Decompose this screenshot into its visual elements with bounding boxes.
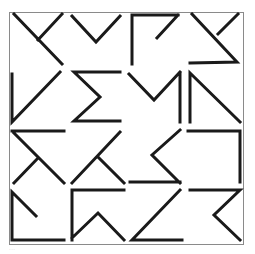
glyph-reverse-l-r3c4 xyxy=(188,131,240,182)
glyph-post-with-diagonal-r2c4 xyxy=(190,73,240,122)
glyph-corner-with-peak-r4c2 xyxy=(72,190,124,240)
glyph-l-with-slash-r4c1 xyxy=(12,192,64,240)
glyph-sigma-r2c2 xyxy=(74,72,120,121)
glyph-bar-with-chevron-r4c4 xyxy=(190,190,240,240)
glyph-grid xyxy=(12,14,240,240)
glyph-corner-with-slash-r1c3 xyxy=(132,15,178,64)
glyph-check-angle-r2c1 xyxy=(12,72,60,122)
figure-caption: ··· xyxy=(9,246,16,252)
puzzle-figure xyxy=(0,0,255,254)
glyph-bar-with-crossed-diagonal-r3c1 xyxy=(12,131,64,183)
glyph-lambda-cross-r3c2 xyxy=(72,132,124,183)
glyph-diagonal-with-base-r4c3 xyxy=(132,190,182,240)
glyph-less-than-with-base-r3c3 xyxy=(130,130,180,183)
glyph-v-shape-r1c2 xyxy=(72,16,120,42)
glyph-v-with-post-r2c3 xyxy=(129,72,180,122)
glyph-crossed-diagonal-r1c1 xyxy=(14,14,62,64)
glyph-diagonal-with-base-r1c4 xyxy=(190,14,238,63)
